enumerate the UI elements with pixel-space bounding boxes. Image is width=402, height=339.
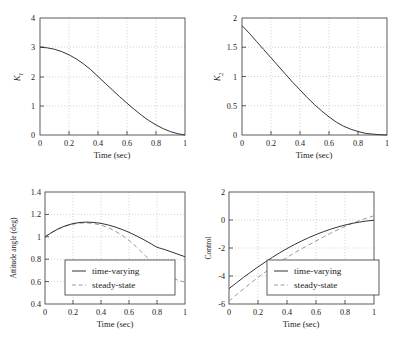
panel-top-left-k1: 0 0.2 0.4 0.6 0.8 1 0 1 2 3 4 Time (sec)… (0, 0, 201, 170)
yaxis-title-top-left: K1 (12, 73, 24, 83)
curve-k2-solid (242, 26, 387, 135)
ytick-labels-bottom-left: 0.4 0.6 0.8 1 1.2 1.4 (31, 188, 41, 309)
ytick-label: 4 (31, 14, 35, 23)
xtick-label: 0.4 (295, 139, 305, 148)
xtick-label: 0.6 (124, 308, 134, 317)
xaxis-title-bottom-right: Time (sec) (283, 319, 320, 329)
ytick-label: 1 (233, 73, 237, 82)
xtick-label: 0.6 (311, 308, 321, 317)
xaxis-title-top-right: Time (sec) (296, 150, 333, 160)
xtick-label: 1 (372, 308, 376, 317)
axes-frame-top-left (40, 18, 185, 135)
panel-bottom-right-control: time-varying steady-state 0 0.2 0.4 0.6 … (201, 170, 402, 339)
xtick-label: 0.4 (282, 308, 292, 317)
ytick-label: 3 (31, 43, 35, 52)
ytick-label: 0 (221, 216, 225, 225)
svg-text:K2: K2 (212, 73, 224, 83)
curve-attitude-time-varying (45, 222, 185, 257)
figure-four-panel-plot: 0 0.2 0.4 0.6 0.8 1 0 1 2 3 4 Time (sec)… (0, 0, 402, 339)
legend-label-steady-state: steady-state (294, 280, 337, 290)
xtick-label: 1 (385, 139, 389, 148)
xtick-label: 0.6 (324, 139, 334, 148)
xtick-label: 0 (38, 139, 42, 148)
xtick-label: 0.6 (122, 139, 132, 148)
panel-top-right-k2: 0 0.2 0.4 0.6 0.8 1 0 0.5 1 1.5 2 Time (… (201, 0, 402, 170)
ytick-label: -2 (218, 244, 225, 253)
xaxis-title-top-left: Time (sec) (94, 150, 131, 160)
xtick-labels-bottom-left: 0 0.2 0.4 0.6 0.8 1 (43, 308, 187, 317)
ytick-label: 2 (221, 188, 225, 197)
xtick-label: 1 (183, 139, 187, 148)
ytick-label: 1 (31, 102, 35, 111)
xtick-label: 0 (43, 308, 47, 317)
yaxis-title-bottom-left: Attitude angle (deg) (9, 217, 18, 279)
plot-area-top-left (40, 18, 185, 135)
legend-label-steady-state: steady-state (92, 280, 135, 290)
xtick-label: 0.8 (353, 139, 363, 148)
ytick-labels-bottom-right: -6 -4 -2 0 2 (218, 188, 225, 309)
yaxis-title-sub: 1 (18, 73, 24, 76)
xtick-label: 0.2 (64, 139, 74, 148)
ytick-label: 1.5 (227, 43, 237, 52)
ytick-label: 1 (37, 233, 41, 242)
gridlines-top-right (242, 18, 387, 135)
ytick-label: 0.5 (227, 102, 237, 111)
xtick-label: 0 (227, 308, 231, 317)
ytick-label: 0.8 (31, 255, 41, 264)
panel-bottom-left-attitude: time-varying steady-state 0 0.2 0.4 0.6 … (0, 170, 201, 339)
xtick-labels-bottom-right: 0 0.2 0.4 0.6 0.8 1 (227, 308, 376, 317)
ytick-label: 2 (31, 73, 35, 82)
legend-label-time-varying: time-varying (92, 266, 140, 276)
xtick-label: 0.4 (96, 308, 106, 317)
plot-area-bottom-right: time-varying steady-state (229, 192, 379, 304)
ytick-labels-top-right: 0 0.5 1 1.5 2 (227, 14, 237, 140)
ytick-label: 0.6 (31, 278, 41, 287)
ytick-label: -4 (218, 272, 225, 281)
xtick-labels-top-right: 0 0.2 0.4 0.6 0.8 1 (240, 139, 389, 148)
xtick-label: 0.8 (340, 308, 350, 317)
plot-area-bottom-left: time-varying steady-state (45, 192, 185, 304)
curve-k1-solid (40, 47, 185, 135)
xtick-label: 0.4 (93, 139, 103, 148)
yaxis-title-bottom-right: Control (204, 236, 213, 259)
ytick-label: 1.4 (31, 188, 41, 197)
legend-bottom-right: time-varying steady-state (267, 260, 379, 295)
ytick-labels-top-left: 0 1 2 3 4 (31, 14, 35, 140)
ytick-label: 0 (233, 131, 237, 140)
plot-area-top-right (242, 18, 387, 135)
xtick-label: 0.2 (266, 139, 276, 148)
gridlines-top-left (40, 18, 185, 135)
yaxis-title-sub: 2 (218, 73, 224, 76)
ytick-label: 0.4 (31, 300, 41, 309)
ytick-label: 1.2 (31, 210, 41, 219)
yaxis-title-text: Attitude angle (deg) (9, 217, 18, 279)
xtick-label: 0.8 (151, 139, 161, 148)
xtick-label: 0 (240, 139, 244, 148)
ytick-label: -6 (218, 300, 225, 309)
yaxis-title-text: Control (204, 236, 213, 259)
xaxis-title-bottom-left: Time (sec) (97, 319, 134, 329)
ytick-label: 0 (31, 131, 35, 140)
svg-text:K1: K1 (12, 73, 24, 83)
legend-label-time-varying: time-varying (294, 266, 342, 276)
xtick-labels-top-left: 0 0.2 0.4 0.6 0.8 1 (38, 139, 187, 148)
xtick-label: 0.8 (152, 308, 162, 317)
xtick-label: 0.2 (253, 308, 263, 317)
xtick-label: 1 (183, 308, 187, 317)
yaxis-title-top-right: K2 (212, 73, 224, 83)
legend-bottom-left: time-varying steady-state (65, 260, 175, 295)
ytick-label: 2 (233, 14, 237, 23)
xtick-label: 0.2 (68, 308, 78, 317)
